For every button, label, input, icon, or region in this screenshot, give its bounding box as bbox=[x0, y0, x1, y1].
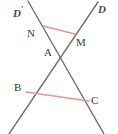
line-label-d-prime: D′ bbox=[13, 4, 23, 19]
line-label-d-prime-letter: D bbox=[13, 7, 21, 19]
segment-nm bbox=[43, 26, 75, 34]
point-label-a: A bbox=[44, 47, 52, 58]
point-label-c: C bbox=[91, 95, 98, 106]
geometry-figure: D′ D N M A B C bbox=[0, 0, 118, 134]
prime-mark-icon: ′ bbox=[21, 4, 24, 14]
point-label-b: B bbox=[14, 82, 21, 93]
line-d bbox=[9, 2, 98, 134]
point-label-n: N bbox=[27, 28, 35, 39]
geometry-canvas bbox=[0, 0, 118, 134]
segment-bc bbox=[26, 92, 89, 101]
line-label-d: D bbox=[98, 4, 106, 15]
line-d-prime bbox=[28, 1, 104, 134]
point-label-m: M bbox=[76, 37, 86, 48]
